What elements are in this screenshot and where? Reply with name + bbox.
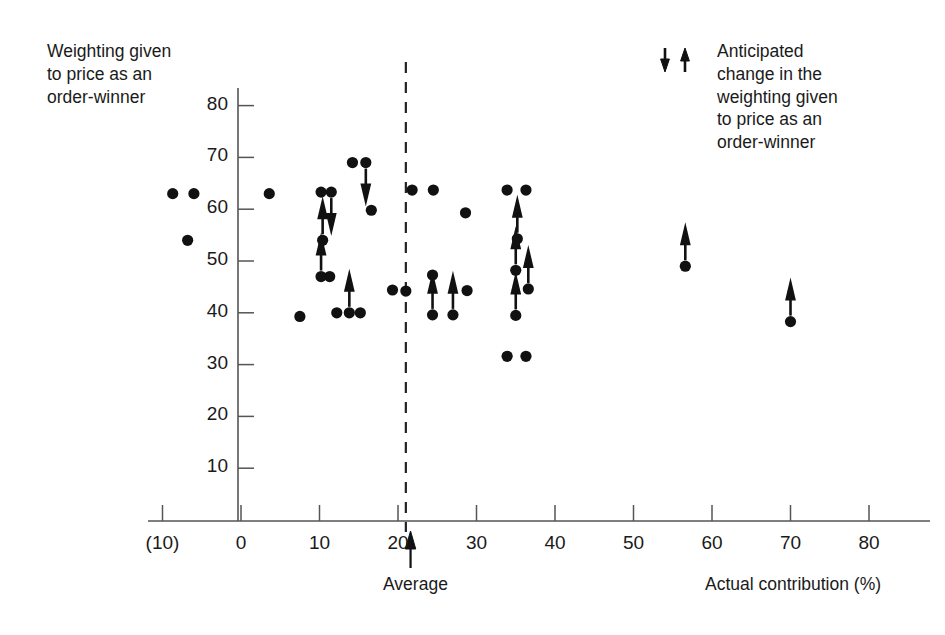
scatter-dot bbox=[366, 205, 377, 216]
data-point bbox=[317, 196, 328, 246]
data-point bbox=[366, 205, 377, 216]
data-point bbox=[785, 278, 796, 328]
scatter-dot bbox=[428, 184, 439, 195]
data-point bbox=[347, 157, 358, 168]
up-arrow-icon bbox=[317, 196, 328, 219]
scatter-dot bbox=[326, 187, 337, 198]
scatter-dot bbox=[347, 157, 358, 168]
y-tick-label-10: 10 bbox=[172, 455, 228, 477]
scatter-dot bbox=[460, 207, 471, 218]
scatter-dot bbox=[264, 188, 275, 199]
scatter-dot bbox=[294, 311, 305, 322]
x-tick-label-10: 10 bbox=[280, 532, 360, 554]
average-label: Average bbox=[383, 573, 448, 596]
scatter-dot bbox=[360, 157, 371, 168]
data-point bbox=[331, 307, 342, 318]
data-point bbox=[264, 188, 275, 199]
scatter-dot bbox=[520, 184, 531, 195]
scatter-dot bbox=[355, 307, 366, 318]
x-tick-label-30: 30 bbox=[437, 532, 517, 554]
data-point bbox=[510, 271, 521, 321]
data-point bbox=[460, 207, 471, 218]
scatter-dot bbox=[502, 351, 513, 362]
scatter-dot bbox=[331, 307, 342, 318]
annotation-layer bbox=[405, 62, 415, 568]
y-tick-label-40: 40 bbox=[172, 300, 228, 322]
data-point bbox=[326, 187, 337, 237]
y-tick-marks bbox=[238, 106, 254, 469]
scatter-dot bbox=[510, 310, 521, 321]
y-tick-label-80: 80 bbox=[172, 93, 228, 115]
scatter-plot-figure: Weighting given to price as an order-win… bbox=[0, 0, 945, 635]
up-arrow-icon bbox=[680, 222, 691, 245]
x-tick-label-60: 60 bbox=[672, 532, 752, 554]
y-tick-label-50: 50 bbox=[172, 248, 228, 270]
x-tick-label-80: 80 bbox=[829, 532, 909, 554]
data-point bbox=[461, 285, 472, 296]
scatter-dot bbox=[447, 309, 458, 320]
x-tick-label-70: 70 bbox=[751, 532, 831, 554]
scatter-dot bbox=[387, 284, 398, 295]
data-point bbox=[182, 235, 193, 246]
bottom-spacer bbox=[0, 623, 945, 625]
scatter-dot bbox=[502, 184, 513, 195]
data-point bbox=[502, 184, 513, 195]
up-arrow-icon bbox=[344, 269, 355, 292]
x-tick-label-20: 20 bbox=[358, 532, 438, 554]
scatter-dot bbox=[315, 187, 326, 198]
data-point bbox=[315, 187, 326, 198]
up-arrow-icon bbox=[785, 278, 796, 301]
data-point bbox=[355, 307, 366, 318]
data-point bbox=[360, 157, 371, 207]
y-tick-label-30: 30 bbox=[172, 352, 228, 374]
scatter-dot bbox=[400, 285, 411, 296]
data-point bbox=[407, 184, 418, 195]
scatter-dot bbox=[344, 307, 355, 318]
x-tick-label-40: 40 bbox=[515, 532, 595, 554]
x-tick-label-0: 0 bbox=[201, 532, 281, 554]
x-axis-title: Actual contribution (%) bbox=[705, 573, 881, 596]
scatter-dot bbox=[520, 351, 531, 362]
data-point bbox=[520, 351, 531, 362]
scatter-dot bbox=[785, 316, 796, 327]
y-tick-label-20: 20 bbox=[172, 403, 228, 425]
scatter-dot bbox=[461, 285, 472, 296]
scatter-dot bbox=[427, 309, 438, 320]
data-point bbox=[447, 271, 458, 321]
y-tick-label-70: 70 bbox=[172, 144, 228, 166]
data-point bbox=[400, 285, 411, 296]
data-point bbox=[502, 351, 513, 362]
data-point bbox=[428, 184, 439, 195]
data-point bbox=[520, 184, 531, 195]
data-point bbox=[324, 271, 335, 282]
data-point bbox=[294, 311, 305, 322]
down-arrow-icon bbox=[326, 213, 337, 236]
scatter-dot bbox=[680, 261, 691, 272]
data-point bbox=[387, 284, 398, 295]
x-tick-label-50: 50 bbox=[594, 532, 674, 554]
x-tick-marks bbox=[163, 505, 870, 521]
up-arrow-icon bbox=[512, 195, 523, 218]
scatter-dot bbox=[324, 271, 335, 282]
data-points-layer bbox=[167, 157, 796, 362]
up-arrow-icon bbox=[510, 271, 521, 294]
y-tick-label-60: 60 bbox=[172, 196, 228, 218]
data-point bbox=[344, 269, 355, 319]
up-arrow-icon bbox=[523, 245, 534, 268]
scatter-dot bbox=[182, 235, 193, 246]
axes bbox=[148, 88, 930, 521]
up-arrow-icon bbox=[448, 271, 459, 294]
data-point bbox=[523, 245, 534, 295]
data-point bbox=[680, 222, 691, 272]
down-arrow-icon bbox=[360, 184, 371, 207]
x-tick-label--10: (10) bbox=[123, 532, 203, 554]
scatter-dot bbox=[523, 283, 534, 294]
scatter-dot bbox=[407, 184, 418, 195]
